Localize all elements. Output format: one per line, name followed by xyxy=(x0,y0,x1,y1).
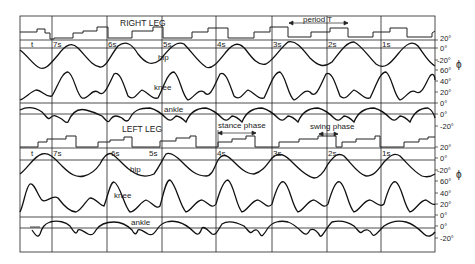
left-time-5s: 5s xyxy=(149,149,157,158)
right-time-4s: 4s xyxy=(217,40,225,49)
right-axis-knee-0: 0° xyxy=(440,100,447,108)
left-axis-hip-0: 0° xyxy=(440,155,447,163)
left-time-2s: 2s xyxy=(328,149,336,158)
left-hip-trace xyxy=(20,153,435,178)
right-axis-knee-40: 40° xyxy=(440,78,451,86)
left-time-4s: 4s xyxy=(217,149,225,158)
left-axis-knee-60: 60° xyxy=(440,178,451,186)
left-hip-label: hip xyxy=(130,165,141,174)
left-axis-hip-20: 20° xyxy=(440,144,451,152)
left-leg-title: LEFT LEG xyxy=(122,125,162,134)
right-time-1s: 1s xyxy=(382,40,390,49)
left-ankle-label: ankle xyxy=(131,218,150,227)
right-phi-symbol: ϕ xyxy=(456,59,462,70)
right-ankle-label: ankle xyxy=(164,105,183,114)
left-knee-label: knee xyxy=(114,191,131,200)
right-axis-hip-20: 20° xyxy=(440,35,451,43)
right-axis-ankle-neg20: -20° xyxy=(440,123,454,131)
right-axis-ankle-0: 0° xyxy=(440,111,447,119)
left-phi-symbol: ϕ xyxy=(456,169,462,180)
left-time-6s: 6s xyxy=(111,149,119,158)
left-axis-knee-0: 0° xyxy=(440,212,447,220)
right-time-3s: 3s xyxy=(273,40,281,49)
right-time-2s: 2s xyxy=(328,40,336,49)
right-axis-knee-20: 20° xyxy=(440,89,451,97)
left-axis-knee-20: 20° xyxy=(440,201,451,209)
left-time-1s: 1s xyxy=(382,149,390,158)
left-axis-hip-neg20: -20° xyxy=(437,167,451,175)
right-knee-trace xyxy=(20,72,435,100)
left-axis-ankle-neg20: -20° xyxy=(440,235,454,243)
right-time-5s: 5s xyxy=(163,40,171,49)
left-time-7s: 7s xyxy=(53,149,61,158)
swing-phase-label: swing phase xyxy=(310,122,354,131)
left-time-3s: 3s xyxy=(273,149,281,158)
stance-phase-label: stance phase xyxy=(218,121,266,130)
right-leg-title: RIGHT LEG xyxy=(120,19,166,28)
left-axis-ankle-0: 0° xyxy=(440,223,447,231)
left-time-axis-label: t xyxy=(31,149,33,158)
right-axis-hip-0: 0° xyxy=(440,45,447,53)
left-leg-contact-trace xyxy=(20,136,435,147)
right-hip-trace xyxy=(20,42,435,69)
right-time-7s: 7s xyxy=(53,40,61,49)
right-leg-contact-trace xyxy=(20,27,435,39)
right-knee-label: knee xyxy=(154,83,171,92)
right-axis-knee-60: 60° xyxy=(440,67,451,75)
right-time-axis-label: t xyxy=(31,40,33,49)
right-hip-label: hip xyxy=(158,53,169,62)
gait-diagram xyxy=(0,0,475,264)
left-ankle-trace xyxy=(32,221,435,236)
period-t-label: period T xyxy=(303,15,332,24)
right-time-6s: 6s xyxy=(108,40,116,49)
left-axis-knee-40: 40° xyxy=(440,190,451,198)
right-axis-hip-neg20: -20° xyxy=(437,57,451,65)
left-knee-trace xyxy=(20,180,435,212)
